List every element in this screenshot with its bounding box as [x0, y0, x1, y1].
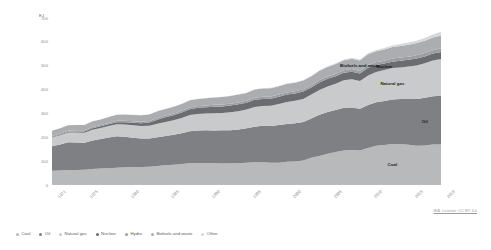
legend-item[interactable]: Oil: [39, 232, 50, 236]
legend-swatch-icon: [96, 233, 99, 236]
chart-legend: CoalOilNatural gasNuclearHydroBiofuels a…: [16, 232, 218, 236]
legend-swatch-icon: [16, 233, 19, 236]
series-label: Biofuels and waste: [340, 63, 380, 68]
legend-label: Hydro: [130, 232, 141, 236]
x-axis-tick: 1980: [130, 189, 140, 199]
legend-label: Nuclear: [101, 232, 116, 236]
plot-area: [52, 18, 441, 185]
stacked-area-svg: [52, 18, 441, 185]
legend-swatch-icon: [39, 233, 42, 236]
legend-label: Coal: [22, 232, 31, 236]
legend-item[interactable]: Other: [201, 232, 217, 236]
series-label: Oil: [422, 119, 428, 124]
x-axis-tick: 2019: [446, 189, 456, 199]
x-axis-tick: 2005: [332, 189, 342, 199]
legend-label: Oil: [45, 232, 50, 236]
x-axis-tick: 1990: [211, 189, 221, 199]
series-label: Coal: [388, 162, 398, 167]
x-axis-tick: 2010: [373, 189, 383, 199]
legend-item[interactable]: Coal: [16, 232, 30, 236]
x-axis-tick: 2000: [292, 189, 302, 199]
legend-item[interactable]: Natural gas: [59, 232, 86, 236]
legend-swatch-icon: [151, 233, 154, 236]
x-axis-tick: 1995: [251, 189, 261, 199]
x-axis-tick: 1985: [170, 189, 180, 199]
license-link[interactable]: IEA. License: CC BY 4.0: [433, 208, 477, 213]
legend-label: Other: [207, 232, 218, 236]
legend-item[interactable]: Biofuels and waste: [151, 232, 193, 236]
chart-figure: EJ 0100200300400500600700 19711975198019…: [0, 0, 491, 250]
legend-label: Natural gas: [65, 232, 87, 236]
legend-swatch-icon: [59, 233, 62, 236]
legend-label: Biofuels and waste: [156, 232, 192, 236]
x-axis-tick: 1971: [57, 189, 67, 199]
series-label: Natural gas: [380, 81, 404, 86]
legend-item[interactable]: Hydro: [125, 232, 142, 236]
legend-swatch-icon: [201, 233, 204, 236]
x-axis-tick: 2015: [413, 189, 423, 199]
x-axis-tick: 1975: [89, 189, 99, 199]
series-label: Nuclear: [376, 64, 392, 69]
legend-swatch-icon: [125, 233, 128, 236]
legend-item[interactable]: Nuclear: [96, 232, 116, 236]
